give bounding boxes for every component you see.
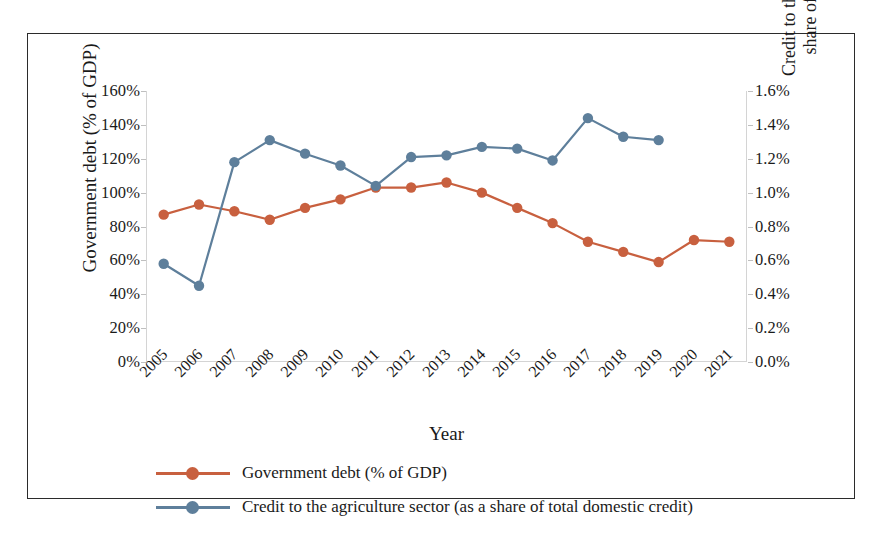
y-axis-left-tick-label: 40% <box>109 284 140 304</box>
legend-swatch <box>156 500 230 514</box>
y-axis-left-tick-label: 80% <box>109 217 140 237</box>
data-point-marker[interactable] <box>547 155 557 165</box>
data-point-marker[interactable] <box>653 257 663 267</box>
series-line <box>164 118 659 286</box>
y-axis-left-tick-label: 140% <box>101 115 140 135</box>
data-point-marker[interactable] <box>158 259 168 269</box>
data-point-marker[interactable] <box>406 182 416 192</box>
y-axis-right-tickmark <box>748 328 753 329</box>
y-axis-right-tick-label: 0.4% <box>755 284 790 304</box>
series-canvas <box>146 91 747 362</box>
plot-area <box>146 91 747 362</box>
chart-frame: Government debt (% of GDP) Credit to the… <box>27 33 855 499</box>
data-point-marker[interactable] <box>300 203 310 213</box>
y-axis-right-title: Credit to the agriculture sector (as a s… <box>779 0 823 87</box>
data-point-marker[interactable] <box>724 237 734 247</box>
data-point-marker[interactable] <box>229 157 239 167</box>
y-axis-right-tickmarks <box>747 91 753 362</box>
data-point-marker[interactable] <box>477 142 487 152</box>
series-line <box>164 182 730 262</box>
y-axis-right-tickmark <box>748 362 753 363</box>
data-point-marker[interactable] <box>618 247 628 257</box>
legend-item[interactable]: Government debt (% of GDP) <box>156 456 816 490</box>
y-axis-right-tickmark <box>748 227 753 228</box>
y-axis-left-tick-label: 60% <box>109 250 140 270</box>
legend-marker-icon <box>186 501 199 514</box>
y-axis-right-tick-label: 1.0% <box>755 183 790 203</box>
y-axis-right-tick-label: 1.2% <box>755 149 790 169</box>
data-point-marker[interactable] <box>229 206 239 216</box>
y-axis-right-tickmark <box>748 159 753 160</box>
data-point-marker[interactable] <box>194 199 204 209</box>
y-axis-right-tick-label: 1.4% <box>755 115 790 135</box>
data-point-marker[interactable] <box>335 160 345 170</box>
data-point-marker[interactable] <box>265 135 275 145</box>
data-point-marker[interactable] <box>406 152 416 162</box>
data-point-marker[interactable] <box>477 187 487 197</box>
data-point-marker[interactable] <box>371 181 381 191</box>
y-axis-right-tickmark <box>748 193 753 194</box>
legend-label: Credit to the agriculture sector (as a s… <box>242 497 693 517</box>
x-axis-title: Year <box>146 423 747 445</box>
y-axis-right-tick-label: 0.8% <box>755 217 790 237</box>
data-point-marker[interactable] <box>441 177 451 187</box>
y-axis-right-tick-label: 1.6% <box>755 81 790 101</box>
y-axis-left-tick-label: 100% <box>101 183 140 203</box>
y-axis-left-tick-label: 20% <box>109 318 140 338</box>
data-point-marker[interactable] <box>265 215 275 225</box>
data-point-marker[interactable] <box>618 132 628 142</box>
data-point-marker[interactable] <box>547 218 557 228</box>
data-point-marker[interactable] <box>512 143 522 153</box>
data-point-marker[interactable] <box>158 209 168 219</box>
data-point-marker[interactable] <box>583 237 593 247</box>
y-axis-left-tick-label: 160% <box>101 81 140 101</box>
y-axis-right-tickmark <box>748 91 753 92</box>
y-axis-left-ticks: 0%20%40%60%80%100%120%140%160% <box>56 91 140 362</box>
data-point-marker[interactable] <box>194 281 204 291</box>
data-point-marker[interactable] <box>300 148 310 158</box>
y-axis-right-ticks: 0.0%0.2%0.4%0.6%0.8%1.0%1.2%1.4%1.6% <box>755 91 817 362</box>
y-axis-right-tickmark <box>748 125 753 126</box>
legend-marker-icon <box>186 467 199 480</box>
legend-swatch <box>156 466 230 480</box>
data-point-marker[interactable] <box>441 150 451 160</box>
chart-screenshot: Government debt (% of GDP) Credit to the… <box>0 0 887 533</box>
data-point-marker[interactable] <box>512 203 522 213</box>
y-axis-right-tick-label: 0.6% <box>755 250 790 270</box>
y-axis-right-tickmark <box>748 294 753 295</box>
data-point-marker[interactable] <box>583 113 593 123</box>
y-axis-right-tickmark <box>748 260 753 261</box>
chart-legend: Government debt (% of GDP) Credit to the… <box>156 456 816 524</box>
legend-label: Government debt (% of GDP) <box>242 463 447 483</box>
data-point-marker[interactable] <box>653 135 663 145</box>
y-axis-right-tick-label: 0.2% <box>755 318 790 338</box>
data-point-marker[interactable] <box>689 235 699 245</box>
y-axis-left-tick-label: 120% <box>101 149 140 169</box>
legend-item[interactable]: Credit to the agriculture sector (as a s… <box>156 490 816 524</box>
y-axis-right-tick-label: 0.0% <box>755 352 790 372</box>
data-point-marker[interactable] <box>335 194 345 204</box>
